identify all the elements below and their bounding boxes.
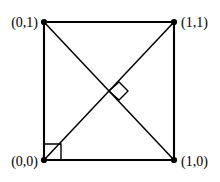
vertex-dot-bottom-left — [41, 157, 47, 163]
right-angle-marker-center — [109, 82, 128, 100]
vertex-label-top-left: (0,1) — [11, 15, 38, 31]
vertex-dot-bottom-right — [171, 157, 177, 163]
vertex-label-bottom-right: (1,0) — [181, 154, 208, 170]
vertex-dot-top-left — [41, 19, 47, 25]
unit-square-figure: (0,1) (1,1) (0,0) (1,0) — [0, 0, 220, 182]
vertex-label-top-right: (1,1) — [181, 15, 208, 31]
figure-canvas: (0,1) (1,1) (0,0) (1,0) — [0, 0, 220, 182]
vertex-dot-top-right — [171, 19, 177, 25]
vertex-label-bottom-left: (0,0) — [11, 154, 38, 170]
